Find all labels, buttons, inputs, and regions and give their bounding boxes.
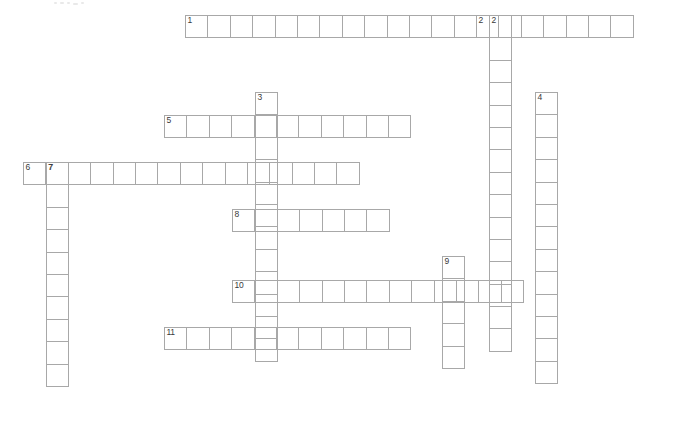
cell[interactable] xyxy=(535,159,558,182)
cell[interactable] xyxy=(113,162,136,185)
cell[interactable] xyxy=(46,296,69,319)
cell[interactable] xyxy=(297,15,320,38)
cell[interactable] xyxy=(299,209,322,232)
cell[interactable]: 10 xyxy=(232,280,255,303)
cell[interactable] xyxy=(489,105,512,128)
cell[interactable] xyxy=(535,204,558,227)
cell[interactable] xyxy=(46,341,69,364)
cell[interactable] xyxy=(389,280,412,303)
cell[interactable] xyxy=(202,162,225,185)
cell[interactable] xyxy=(254,115,277,138)
cell[interactable]: 5 xyxy=(164,115,187,138)
cell[interactable] xyxy=(366,327,389,350)
cell[interactable] xyxy=(254,209,277,232)
cell[interactable] xyxy=(180,162,203,185)
cell[interactable]: 1 xyxy=(185,15,208,38)
cell[interactable] xyxy=(501,280,524,303)
cell[interactable] xyxy=(521,15,544,38)
cell[interactable]: 6 xyxy=(23,162,46,185)
cell[interactable] xyxy=(434,280,457,303)
cell[interactable]: 3 xyxy=(255,92,278,115)
cell[interactable] xyxy=(46,207,69,230)
cell[interactable] xyxy=(157,162,180,185)
cell[interactable] xyxy=(299,280,322,303)
cell[interactable] xyxy=(46,319,69,342)
cell[interactable] xyxy=(431,15,454,38)
cell[interactable] xyxy=(442,346,465,369)
cell[interactable]: 8 xyxy=(232,209,255,232)
cell[interactable] xyxy=(68,162,91,185)
cell[interactable] xyxy=(535,249,558,272)
cell[interactable] xyxy=(489,82,512,105)
cell[interactable] xyxy=(254,280,277,303)
cell[interactable] xyxy=(231,115,254,138)
cell[interactable] xyxy=(409,15,432,38)
cell[interactable] xyxy=(535,361,558,384)
cell[interactable] xyxy=(366,115,389,138)
cell[interactable] xyxy=(588,15,611,38)
cell[interactable] xyxy=(489,60,512,83)
cell[interactable] xyxy=(489,217,512,240)
cell[interactable] xyxy=(298,115,321,138)
cell[interactable] xyxy=(46,184,69,207)
cell[interactable] xyxy=(225,162,248,185)
cell[interactable] xyxy=(231,327,254,350)
cell[interactable] xyxy=(535,316,558,339)
cell[interactable] xyxy=(489,127,512,150)
cell[interactable] xyxy=(321,115,344,138)
cell[interactable] xyxy=(46,229,69,252)
cell[interactable] xyxy=(489,328,512,351)
cell[interactable] xyxy=(186,115,209,138)
cell[interactable] xyxy=(277,280,300,303)
cell[interactable]: 9 xyxy=(442,256,465,279)
cell[interactable] xyxy=(135,162,158,185)
cell[interactable] xyxy=(344,280,367,303)
cell[interactable] xyxy=(387,15,410,38)
cell[interactable] xyxy=(344,209,367,232)
cell[interactable] xyxy=(478,280,501,303)
cell[interactable] xyxy=(319,15,342,38)
cell[interactable] xyxy=(343,327,366,350)
cell[interactable] xyxy=(209,115,232,138)
cell[interactable] xyxy=(535,338,558,361)
cell[interactable] xyxy=(442,301,465,324)
cell[interactable] xyxy=(275,15,298,38)
cell[interactable] xyxy=(336,162,359,185)
cell[interactable] xyxy=(388,115,411,138)
cell[interactable] xyxy=(230,15,253,38)
cell[interactable] xyxy=(411,280,434,303)
cell[interactable] xyxy=(46,252,69,275)
cell[interactable] xyxy=(456,280,479,303)
cell[interactable] xyxy=(90,162,113,185)
cell[interactable] xyxy=(535,294,558,317)
cell[interactable] xyxy=(610,15,633,38)
cell[interactable] xyxy=(343,115,366,138)
cell[interactable] xyxy=(364,15,387,38)
cell[interactable] xyxy=(535,114,558,137)
cell[interactable] xyxy=(566,15,589,38)
cell[interactable]: 7 xyxy=(46,162,69,185)
cell[interactable] xyxy=(489,194,512,217)
cell[interactable] xyxy=(388,327,411,350)
cell[interactable] xyxy=(535,271,558,294)
cell[interactable] xyxy=(442,323,465,346)
cell[interactable] xyxy=(298,327,321,350)
cell[interactable] xyxy=(489,239,512,262)
cell[interactable] xyxy=(207,15,230,38)
cell[interactable]: 4 xyxy=(535,92,558,115)
cell[interactable] xyxy=(342,15,365,38)
cell[interactable] xyxy=(46,274,69,297)
cell[interactable] xyxy=(269,162,292,185)
cell[interactable] xyxy=(489,172,512,195)
cell[interactable] xyxy=(186,327,209,350)
cell[interactable]: 11 xyxy=(164,327,187,350)
cell[interactable] xyxy=(535,182,558,205)
cell[interactable] xyxy=(321,327,344,350)
cell[interactable] xyxy=(252,15,275,38)
cell[interactable] xyxy=(535,137,558,160)
cell[interactable] xyxy=(366,209,389,232)
cell[interactable] xyxy=(535,226,558,249)
cell[interactable] xyxy=(255,249,278,272)
cell[interactable] xyxy=(247,162,270,185)
cell[interactable] xyxy=(489,306,512,329)
